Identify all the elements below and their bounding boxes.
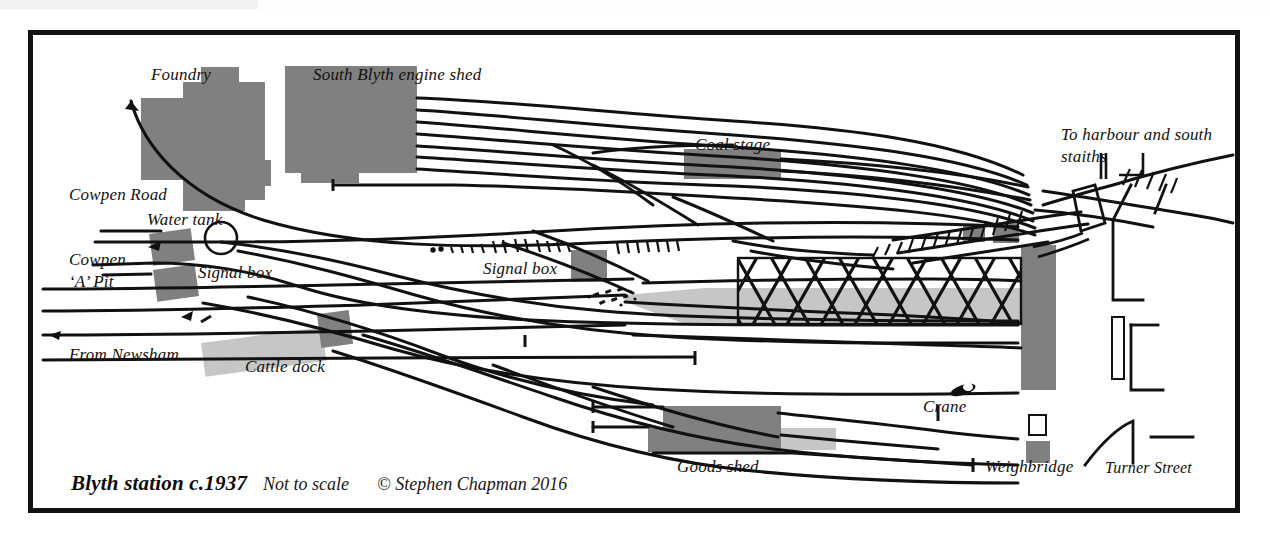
- label-foundry: Foundry: [151, 65, 211, 84]
- signal-box-west-block: [153, 264, 199, 302]
- label-signal-box-mid: Signal box: [483, 259, 557, 278]
- diagram-page: Foundry South Blyth engine shed Coal sta…: [0, 0, 1270, 547]
- weighbridge-outline: [1029, 415, 1046, 435]
- page-bleed-top: [0, 0, 1270, 14]
- label-weighbridge: Weighbridge: [985, 457, 1073, 476]
- label-from-newsham: From Newsham: [69, 345, 179, 364]
- label-coal-stage: Coal stage: [695, 135, 770, 154]
- diagram-frame: Foundry South Blyth engine shed Coal sta…: [28, 30, 1240, 513]
- label-goods-shed: Goods shed: [677, 457, 759, 476]
- diagram-canvas: Foundry South Blyth engine shed Coal sta…: [33, 35, 1235, 508]
- label-cowpen-a-pit-2: ‘A’ Pit: [69, 272, 114, 291]
- caption-title: Blyth station c.1937: [71, 471, 247, 496]
- caption-copyright: © Stephen Chapman 2016: [377, 474, 567, 495]
- label-cattle-dock: Cattle dock: [245, 357, 325, 376]
- caption: Blyth station c.1937 Not to scale © Step…: [71, 471, 567, 496]
- label-turner-street: Turner Street: [1105, 459, 1192, 477]
- station-building: [1021, 245, 1056, 390]
- caption-scale: Not to scale: [263, 474, 349, 495]
- label-cowpen-road: Cowpen Road: [69, 185, 167, 204]
- label-cowpen-a-pit: Cowpen: [69, 250, 126, 269]
- turner-street-roads: [1085, 185, 1193, 465]
- foundry-outbuilding: [238, 160, 271, 186]
- harbour-bracket: [1101, 153, 1143, 179]
- label-signal-box-west: Signal box: [198, 263, 272, 282]
- signal-box-mid-block: [571, 250, 607, 282]
- label-crane: Crane: [923, 397, 967, 416]
- turner-street-outline-a: [1112, 317, 1124, 379]
- page-bleed-bar: [0, 0, 258, 9]
- label-engine-shed: South Blyth engine shed: [313, 65, 481, 84]
- label-to-harbour: To harbour and south: [1061, 125, 1212, 144]
- label-water-tank: Water tank: [147, 210, 223, 229]
- label-to-harbour-2: staiths: [1061, 147, 1107, 166]
